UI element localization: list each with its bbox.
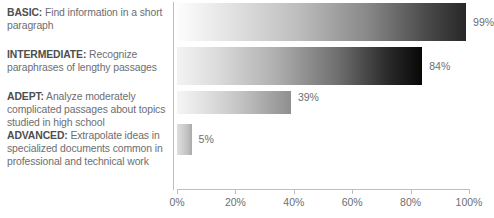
x-axis-tick-label: 0% [169, 196, 184, 208]
x-axis-tick-label: 100% [456, 196, 483, 208]
bar-value-label-advanced: 5% [199, 133, 214, 145]
vertical-divider-rule [173, 2, 174, 190]
bar-advanced [177, 124, 192, 155]
x-axis-tick [469, 189, 470, 194]
category-description-adept: ADEPT: Analyze moderately complicated pa… [7, 90, 167, 130]
category-term-basic: BASIC: [7, 7, 42, 18]
bar-basic [177, 3, 466, 41]
x-axis-tick [411, 189, 412, 194]
bar-fill-basic [177, 3, 466, 41]
x-axis-tick-label: 60% [342, 196, 363, 208]
x-axis-tick [235, 189, 236, 194]
x-axis-line [177, 189, 469, 190]
category-description-advanced: ADVANCED: Extrapolate ideas in specializ… [7, 129, 167, 169]
bar-fill-adept [177, 91, 291, 114]
category-term-adept: ADEPT: [7, 91, 44, 102]
plot-area: 99% 84% 39% 5% 0%20%40%60%80%100% [177, 0, 469, 218]
bar-fill-advanced [177, 124, 192, 155]
category-description-basic: BASIC: Find information in a short parag… [7, 6, 167, 32]
bar-adept [177, 91, 291, 114]
bar-value-label-intermediate: 84% [429, 60, 450, 72]
x-axis-tick-label: 40% [283, 196, 304, 208]
x-axis-tick-label: 80% [400, 196, 421, 208]
bar-fill-intermediate [177, 47, 422, 85]
category-term-advanced: ADVANCED: [7, 130, 68, 141]
bar-value-label-adept: 39% [298, 91, 319, 103]
x-axis-tick [177, 189, 178, 194]
category-description-list: BASIC: Find information in a short parag… [7, 0, 167, 218]
category-term-intermediate: INTERMEDIATE: [7, 49, 86, 60]
x-axis-tick [294, 189, 295, 194]
category-description-intermediate: INTERMEDIATE: Recognize paraphrases of l… [7, 48, 167, 74]
bar-value-label-basic: 99% [473, 16, 494, 28]
x-axis-tick-label: 20% [225, 196, 246, 208]
bar-intermediate [177, 47, 422, 85]
x-axis-tick [352, 189, 353, 194]
